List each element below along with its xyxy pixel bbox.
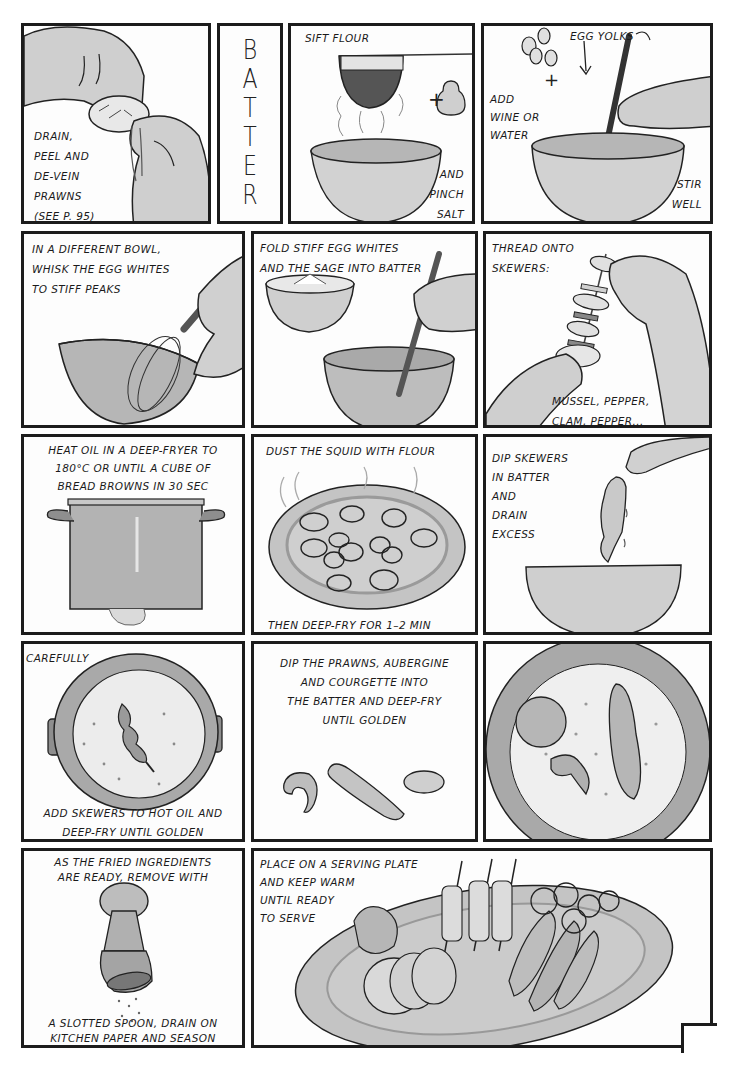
batter-title: B A T T E R — [225, 36, 276, 210]
panel-egg-yolks: + EGG YOLKS ADD WINE OR WATER STIR WELL — [481, 23, 713, 224]
panel-add-skewers: CAREFULLY ADD SKEWERS TO HOT OIL AND DEE… — [21, 641, 245, 842]
caption-pinch-salt: AND PINCH SALT — [429, 164, 464, 224]
caption-add-wine: ADD WINE OR WATER — [490, 90, 540, 144]
squid-plate-illustration — [254, 437, 478, 635]
title-letter: T — [243, 94, 257, 123]
frying-closeup-illustration — [486, 644, 712, 842]
title-letter: A — [242, 65, 257, 94]
panel-serve: PLACE ON A SERVING PLATE AND KEEP WARM U… — [251, 848, 713, 1048]
caption-dip-skewers: DIP SKEWERS IN BATTER AND DRAIN EXCESS — [492, 449, 568, 544]
title-letter: B — [243, 36, 257, 65]
caption-egg-yolks: EGG YOLKS — [570, 26, 634, 46]
panel-sift-flour: + SIFT FLOUR AND PINCH SALT — [288, 23, 475, 224]
caption-serve: PLACE ON A SERVING PLATE AND KEEP WARM U… — [260, 855, 418, 927]
page-corner-notch — [681, 1023, 717, 1053]
panel-frying-closeup — [483, 641, 712, 842]
caption-carefully: CAREFULLY — [26, 648, 89, 668]
caption-skewer-order: MUSSEL, PEPPER, CLAM, PEPPER... — [552, 391, 650, 428]
panel-whisk-whites: IN A DIFFERENT BOWL, WHISK THE EGG WHITE… — [21, 231, 245, 428]
caption-drain-peel: DRAIN, PEEL AND DE-VEIN PRAWNS (SEE P. 9… — [34, 126, 95, 224]
caption-add-skewers: ADD SKEWERS TO HOT OIL AND DEEP-FRY UNTI… — [24, 804, 242, 842]
panel-batter-title: B A T T E R — [217, 23, 283, 224]
caption-heat-oil: HEAT OIL IN A DEEP-FRYER TO 180°C OR UNT… — [24, 441, 242, 495]
svg-text:+: + — [544, 69, 559, 90]
title-letter: E — [243, 152, 257, 181]
caption-sift-flour: SIFT FLOUR — [305, 28, 369, 48]
caption-drain-season: A SLOTTED SPOON, DRAIN ON KITCHEN PAPER … — [24, 1016, 242, 1046]
title-letter: R — [242, 181, 257, 210]
panel-thread-skewers: THREAD ONTO SKEWERS: MUSSEL, PEPPER, CLA… — [483, 231, 712, 428]
panel-fold-whites: FOLD STIFF EGG WHITES AND THE SAGE INTO … — [251, 231, 478, 428]
panel-season: AS THE FRIED INGREDIENTS ARE READY, REMO… — [21, 848, 245, 1048]
caption-fry-time: THEN DEEP-FRY FOR 1–2 MIN — [268, 615, 431, 635]
panel-heat-oil: HEAT OIL IN A DEEP-FRYER TO 180°C OR UNT… — [21, 434, 245, 635]
caption-whisk: IN A DIFFERENT BOWL, WHISK THE EGG WHITE… — [32, 239, 170, 299]
panel-dust-squid: DUST THE SQUID WITH FLOUR THEN DEEP-FRY … — [251, 434, 478, 635]
panel-dip-vegetables: DIP THE PRAWNS, AUBERGINE AND COURGETTE … — [251, 641, 478, 842]
panel-dip-skewers: DIP SKEWERS IN BATTER AND DRAIN EXCESS — [483, 434, 712, 635]
caption-stir-well: STIR WELL — [672, 174, 702, 214]
caption-dip-vegetables: DIP THE PRAWNS, AUBERGINE AND COURGETTE … — [254, 654, 475, 730]
panel-peel-prawns: DRAIN, PEEL AND DE-VEIN PRAWNS (SEE P. 9… — [21, 23, 211, 224]
caption-dust-squid: DUST THE SQUID WITH FLOUR — [266, 441, 436, 461]
caption-fold: FOLD STIFF EGG WHITES AND THE SAGE INTO … — [260, 238, 422, 278]
caption-thread: THREAD ONTO SKEWERS: — [492, 238, 574, 278]
svg-text:+: + — [428, 87, 445, 111]
caption-remove: AS THE FRIED INGREDIENTS ARE READY, REMO… — [24, 855, 242, 885]
title-letter: T — [243, 123, 257, 152]
